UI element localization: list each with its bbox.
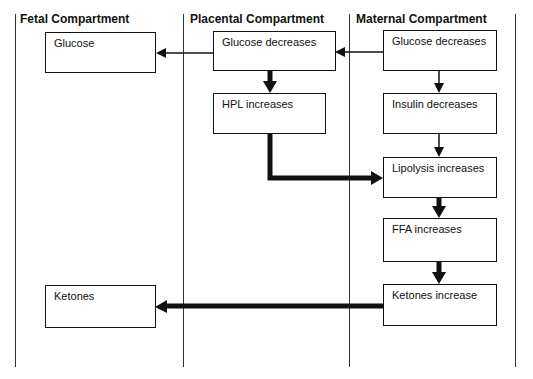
arrowhead-icon: [432, 272, 446, 284]
node-maternal-ketones-increase: Ketones increase: [383, 284, 497, 326]
arrowhead-icon: [155, 300, 167, 313]
node-maternal-glucose-decreases: Glucose decreases: [383, 30, 497, 71]
node-fetal-ketones: Ketones: [45, 285, 156, 328]
arrowhead-icon: [432, 206, 446, 218]
arrowhead-icon: [335, 47, 345, 57]
node-insulin-decreases: Insulin decreases: [383, 93, 497, 134]
node-fetal-glucose: Glucose: [45, 32, 156, 73]
node-lipolysis-increases: Lipolysis increases: [383, 157, 497, 198]
arrowhead-icon: [263, 81, 277, 93]
node-placental-glucose-decreases: Glucose decreases: [213, 31, 336, 71]
arrowhead-icon: [434, 83, 444, 93]
node-hpl-increases: HPL increases: [213, 93, 326, 134]
arrowhead-icon: [371, 171, 383, 185]
node-ffa-increases: FFA increases: [383, 218, 497, 262]
arrow-hpl-to-lipolysis: [270, 133, 372, 178]
arrowhead-icon: [156, 48, 166, 58]
arrowhead-icon: [434, 147, 444, 157]
